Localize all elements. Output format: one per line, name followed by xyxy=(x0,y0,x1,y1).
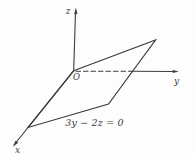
figure-canvas: z O y x 3y − 2z = 0 xyxy=(0,0,195,154)
z-axis-arrowhead xyxy=(74,8,77,15)
x-axis-label: x xyxy=(15,145,20,155)
plane-parallelogram xyxy=(28,40,156,128)
plane-equation-label: 3y − 2z = 0 xyxy=(65,117,124,128)
origin-label: O xyxy=(73,72,80,82)
z-axis-label: z xyxy=(65,6,71,16)
z-axis-line xyxy=(74,12,76,71)
x-axis-line xyxy=(16,71,74,143)
coordinate-plane-diagram: z O y x 3y − 2z = 0 xyxy=(0,0,195,154)
y-axis-label: y xyxy=(173,76,180,86)
y-axis-arrowhead xyxy=(173,70,179,73)
